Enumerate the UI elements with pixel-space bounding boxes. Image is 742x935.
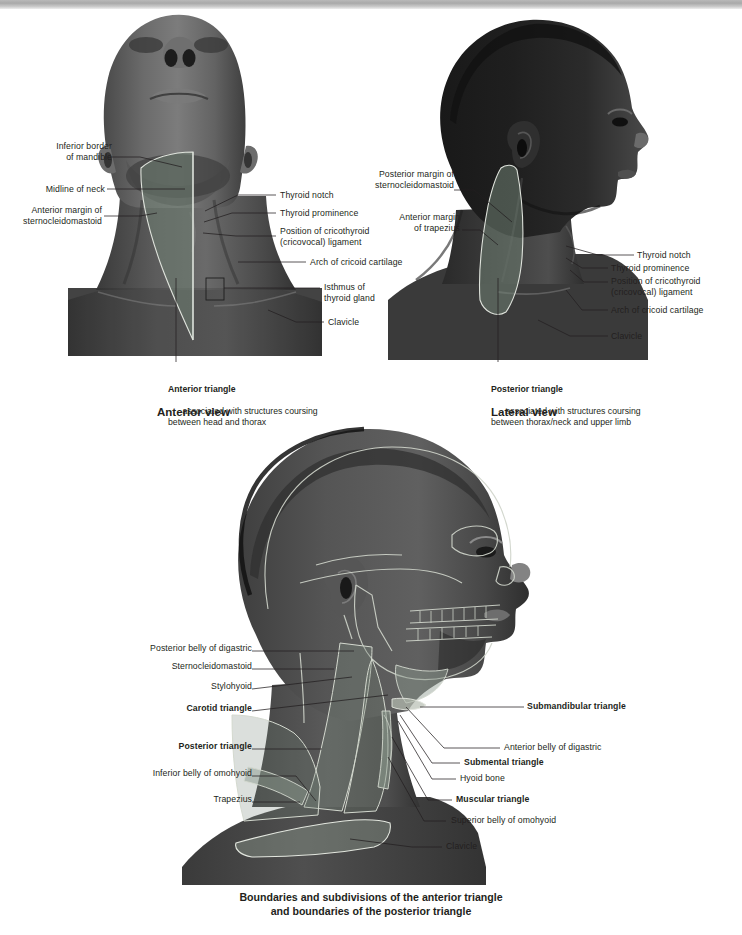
figure-caption: Boundaries and subdivisions of the anter… [0,890,742,918]
label-superior-belly-of-omohyoid: Superior belly of omohyoid [451,815,556,826]
label-thyroid-notch-anterior: Thyroid notch [280,190,334,201]
panel-lateral-view: Posterior margin of sternocleidomastoid … [370,0,742,420]
anterior-body-silhouette [68,15,322,356]
figure-page: Inferior border of mandible Midline of n… [0,0,742,935]
label-posterior-margin-of-sternocleidomastoid: Posterior margin of sternocleidomastoid [370,169,454,190]
label-isthmus-of-thyroid-gland: Isthmus of thyroid gland [324,282,375,303]
label-stylohyoid: Stylohyoid [0,681,252,692]
lateral-view-illustration [370,0,742,420]
label-posterior-belly-of-digastric: Posterior belly of digastric [0,643,252,654]
label-anterior-belly-of-digastric: Anterior belly of digastric [504,742,601,753]
label-posterior-triangle-bottom: Posterior triangle [0,741,252,752]
label-sternocleidomastoid-bottom: Sternocleidomastoid [0,661,252,672]
label-submental-triangle: Submental triangle [464,757,544,768]
label-clavicle-bottom: Clavicle [446,841,477,852]
label-clavicle-anterior: Clavicle [328,317,359,328]
label-carotid-triangle: Carotid triangle [0,703,252,714]
label-submandibular-triangle: Submandibular triangle [527,701,626,712]
label-hyoid-bone: Hyoid bone [460,773,505,784]
bottom-view-illustration [0,415,742,935]
caption-posterior-triangle-title: Posterior triangle [491,384,641,395]
label-position-of-cricothyroid-ligament-lateral: Position of cricothyroid (cricovocal) li… [611,276,701,297]
panel-anterior-view: Inferior border of mandible Midline of n… [0,0,370,420]
label-anterior-margin-of-trapezius: Anterior margin of trapezius [370,212,460,233]
label-thyroid-prominence-lateral: Thyroid prominence [611,263,689,274]
label-thyroid-prominence-anterior: Thyroid prominence [280,208,358,219]
label-arch-of-cricoid-cartilage-lateral: Arch of cricoid cartilage [611,305,703,316]
label-inferior-border-of-mandible: Inferior border of mandible [0,141,112,162]
label-anterior-margin-of-sternocleidomastoid: Anterior margin of sternocleidomastoid [0,205,102,226]
label-trapezius: Trapezius [0,794,252,805]
label-clavicle-lateral: Clavicle [611,331,642,342]
panel-boundaries-subdivisions: Posterior belly of digastric Sternocleid… [0,415,742,935]
caption-anterior-triangle-title: Anterior triangle [168,384,318,395]
label-midline-of-neck: Midline of neck [0,184,105,195]
label-thyroid-notch-lateral: Thyroid notch [637,250,691,261]
label-muscular-triangle: Muscular triangle [456,794,529,805]
label-position-of-cricothyroid-ligament-anterior: Position of cricothyroid (cricovocal) li… [280,226,370,247]
label-inferior-belly-of-omohyoid: Inferior belly of omohyoid [0,768,252,779]
